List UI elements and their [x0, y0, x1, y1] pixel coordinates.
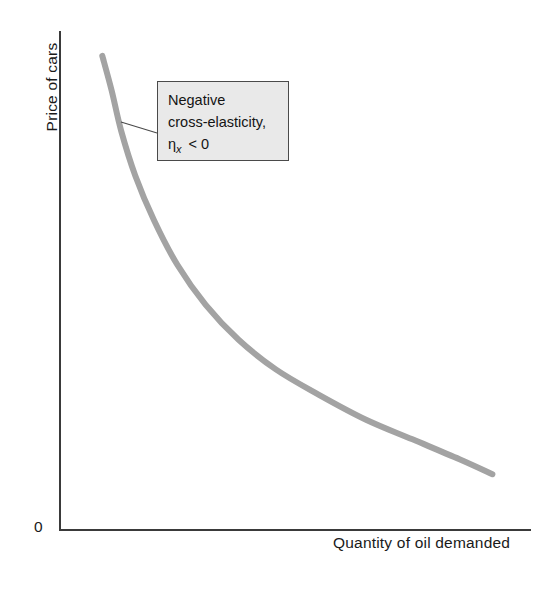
eta-subscript: x: [176, 143, 182, 155]
annotation-formula: ηx< 0: [168, 133, 288, 160]
annotation-line-2: cross-elasticity,: [168, 111, 288, 133]
annotation-line-1: Negative: [168, 89, 288, 111]
annotation-leader-line: [121, 122, 157, 133]
relation-text: < 0: [189, 136, 210, 152]
chart-figure: Price of cars Quantity of oil demanded 0…: [0, 0, 557, 591]
x-axis-line: [59, 529, 531, 531]
x-axis-label: Quantity of oil demanded: [333, 534, 510, 552]
annotation-callout-box: Negative cross-elasticity, ηx< 0: [157, 81, 289, 161]
y-axis-label: Price of cars: [43, 17, 61, 157]
eta-symbol: η: [168, 136, 176, 152]
origin-label: 0: [34, 518, 43, 536]
